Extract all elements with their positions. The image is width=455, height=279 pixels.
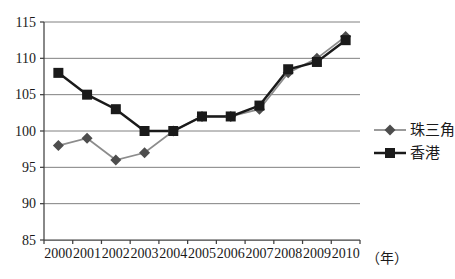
svg-text:95: 95 [22, 160, 36, 175]
line-chart: 8590951001051101152000200120022003200420… [0, 0, 455, 279]
svg-text:2002: 2002 [102, 246, 130, 261]
svg-text:2004: 2004 [159, 246, 187, 261]
svg-text:90: 90 [22, 196, 36, 211]
legend-item-zhusanjiao: 珠三角 [374, 120, 455, 140]
svg-text:2010: 2010 [332, 246, 360, 261]
x-axis-unit-label: （年） [366, 247, 408, 267]
svg-text:2000: 2000 [44, 246, 72, 261]
svg-text:2007: 2007 [245, 246, 273, 261]
svg-text:85: 85 [22, 233, 36, 248]
square-marker-icon [374, 145, 406, 161]
svg-text:105: 105 [15, 87, 36, 102]
legend-label-xianggang: 香港 [410, 143, 440, 163]
svg-text:110: 110 [16, 51, 36, 66]
svg-text:2008: 2008 [274, 246, 302, 261]
svg-text:2009: 2009 [303, 246, 331, 261]
legend-label-zhusanjiao: 珠三角 [410, 120, 455, 140]
svg-text:2005: 2005 [188, 246, 216, 261]
legend-item-xianggang: 香港 [374, 143, 455, 163]
svg-text:2001: 2001 [73, 246, 101, 261]
legend: 珠三角 香港 [374, 120, 455, 163]
svg-text:2003: 2003 [131, 246, 159, 261]
svg-text:100: 100 [15, 124, 36, 139]
svg-text:115: 115 [16, 15, 36, 30]
diamond-marker-icon [374, 122, 406, 138]
svg-text:2006: 2006 [217, 246, 245, 261]
